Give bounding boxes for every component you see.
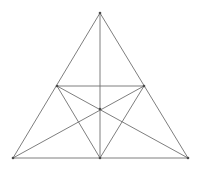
vertex-mid-right [143,85,146,88]
vertex-centroid [99,108,102,111]
vertex-bottom-left [12,157,15,160]
geometry-figure [0,0,200,170]
vertex-mid-left [56,85,59,88]
vertex-bottom-right [187,157,190,160]
vertex-apex [99,12,102,15]
vertex-mid-base [99,157,102,160]
